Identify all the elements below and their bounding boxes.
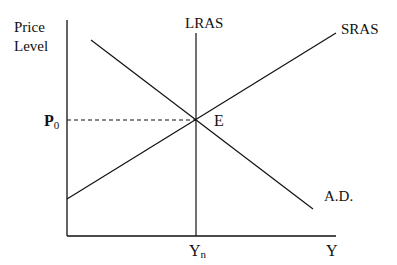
lras-label: LRAS <box>185 15 223 31</box>
yn-main: Y <box>189 242 201 259</box>
ad-label: A.D. <box>324 188 353 204</box>
sras-label: SRAS <box>341 21 379 37</box>
y-axis-label-line1: Price <box>14 19 45 35</box>
yn-subscript: n <box>201 248 207 260</box>
y-axis-label-line2: Level <box>14 38 48 54</box>
p0-subscript: 0 <box>54 119 60 131</box>
yn-label: Yn <box>189 242 207 260</box>
ad-as-diagram: Price Level Y LRAS SRAS A.D. E P0 Yn <box>0 0 397 265</box>
sras-curve <box>67 33 336 199</box>
p0-main: P <box>44 112 54 129</box>
p0-label: P0 <box>44 112 60 131</box>
equilibrium-label: E <box>214 112 224 129</box>
ad-curve <box>91 40 313 209</box>
x-axis-label: Y <box>326 242 338 259</box>
